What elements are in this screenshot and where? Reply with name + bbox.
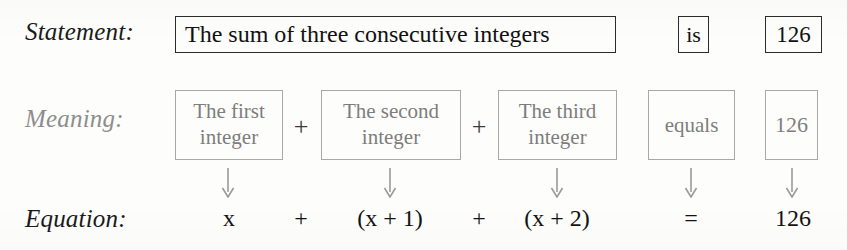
equation-operator-2: + (472, 205, 486, 232)
meaning-term-2-line-2: integer (362, 125, 420, 151)
row-label-statement: Statement: (25, 18, 134, 46)
meaning-value-text: 126 (775, 112, 808, 138)
worksheet-diagram: Statement: The sum of three consecutive … (0, 0, 847, 250)
meaning-verb-text: equals (665, 113, 719, 138)
meaning-term-1-line-1: The first (193, 99, 265, 125)
row-label-equation: Equation: (25, 205, 127, 233)
meaning-term-1-line-2: integer (200, 125, 258, 151)
equation-term-1: x (223, 205, 235, 232)
meaning-term-box-2: The second integer (321, 90, 461, 160)
statement-phrase-text: The sum of three consecutive integers (185, 21, 550, 48)
down-arrow-icon-1 (214, 168, 242, 198)
meaning-term-box-3: The third integer (498, 90, 617, 160)
meaning-term-3-line-2: integer (528, 125, 586, 151)
statement-verb-text: is (686, 22, 701, 48)
down-arrow-icon-4 (677, 168, 705, 198)
down-arrow-icon-5 (778, 168, 806, 198)
meaning-verb-box: equals (648, 90, 735, 160)
statement-verb-box: is (678, 16, 709, 53)
meaning-value-box: 126 (765, 90, 818, 160)
equation-operator-1: + (294, 205, 308, 232)
meaning-operator-1: + (289, 112, 313, 142)
meaning-term-box-1: The first integer (175, 90, 283, 160)
statement-value-box: 126 (765, 16, 822, 53)
statement-phrase-box: The sum of three consecutive integers (175, 16, 616, 53)
equation-term-3: (x + 2) (524, 205, 590, 232)
down-arrow-icon-2 (376, 168, 404, 198)
meaning-operator-2: + (467, 112, 491, 142)
equation-relation: = (684, 205, 698, 232)
down-arrow-icon-3 (543, 168, 571, 198)
meaning-term-3-line-1: The third (519, 99, 597, 125)
row-label-meaning: Meaning: (25, 105, 124, 133)
statement-value-text: 126 (776, 22, 811, 48)
equation-term-2: (x + 1) (357, 205, 423, 232)
meaning-term-2-line-1: The second (343, 99, 439, 125)
equation-value: 126 (775, 205, 811, 232)
